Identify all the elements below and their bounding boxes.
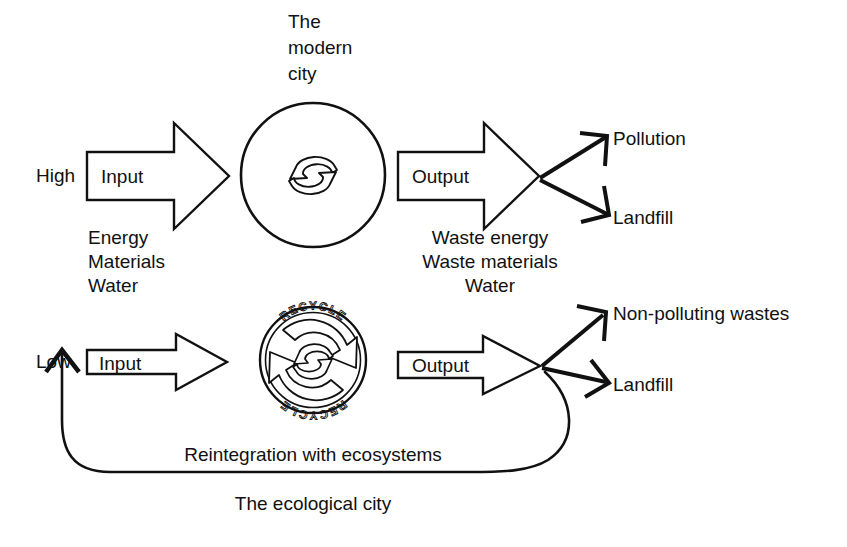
top-destination-2: Landfill <box>613 207 673 228</box>
diagram-canvas: The modern city High Input Energy Materi… <box>0 0 847 547</box>
top-output-arrow-label: Output <box>412 166 470 187</box>
bottom-nonpolluting-arrow <box>542 306 606 366</box>
bottom-destination-1: Non-polluting wastes <box>613 303 789 324</box>
bottom-caption: The ecological city <box>235 493 392 514</box>
top-output-item-3: Water <box>465 275 516 296</box>
top-input-item-3: Water <box>88 275 139 296</box>
top-input-item-1: Energy <box>88 227 149 248</box>
top-landfill-arrow <box>540 180 609 222</box>
top-destination-1: Pollution <box>613 128 686 149</box>
top-input-level-label: High <box>36 165 75 186</box>
ecological-city-diagram: The modern city High Input Energy Materi… <box>0 0 847 547</box>
top-caption-line-1: The <box>288 11 321 32</box>
modern-city-circle <box>241 103 385 247</box>
top-output-item-1: Waste energy <box>432 227 549 248</box>
top-caption-line-2: modern <box>288 37 352 58</box>
top-input-item-2: Materials <box>88 251 165 272</box>
top-output-item-2: Waste materials <box>422 251 558 272</box>
bottom-output-arrow-label: Output <box>412 355 470 376</box>
top-caption-line-3: city <box>288 63 317 84</box>
top-pollution-arrow <box>540 133 607 178</box>
bottom-input-arrow-label: Input <box>99 353 142 374</box>
feedback-label: Reintegration with ecosystems <box>184 444 442 465</box>
bottom-destination-2: Landfill <box>613 374 673 395</box>
top-input-arrow-label: Input <box>101 166 144 187</box>
